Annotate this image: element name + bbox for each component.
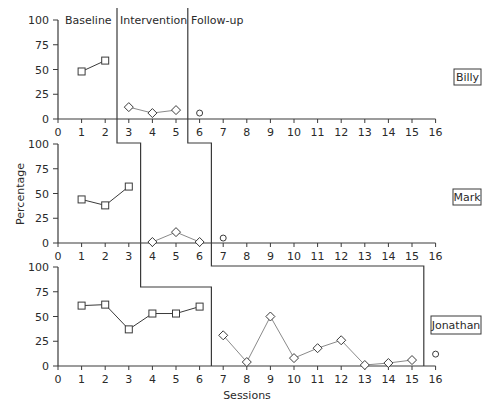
- x-tick-label: 5: [173, 126, 180, 139]
- square-marker: [173, 310, 180, 317]
- x-tick-label: 16: [429, 250, 443, 263]
- x-tick-label: 2: [102, 250, 109, 263]
- series-line: [82, 305, 200, 330]
- phase-label-follow-up: Follow-up: [191, 14, 243, 27]
- x-tick-label: 2: [102, 126, 109, 139]
- diamond-marker: [290, 354, 299, 363]
- diamond-marker: [148, 238, 157, 247]
- diamond-marker: [148, 109, 157, 118]
- x-tick-label: 8: [243, 126, 250, 139]
- series-baseline: [78, 183, 132, 209]
- x-axis-title: Sessions: [223, 389, 271, 402]
- square-marker: [78, 68, 85, 75]
- square-marker: [102, 301, 109, 308]
- x-tick-label: 6: [196, 126, 203, 139]
- x-tick-label: 12: [334, 126, 348, 139]
- phase-label-baseline: Baseline: [65, 14, 112, 27]
- series-follow-up: [220, 235, 226, 241]
- x-tick-label: 13: [358, 373, 372, 386]
- x-tick-label: 15: [405, 373, 419, 386]
- diamond-marker: [408, 356, 417, 365]
- y-tick-label: 25: [35, 335, 49, 348]
- x-tick-label: 0: [55, 126, 62, 139]
- square-marker: [102, 57, 109, 64]
- diamond-marker: [313, 344, 322, 353]
- y-tick-label: 50: [35, 311, 49, 324]
- x-tick-label: 12: [334, 373, 348, 386]
- diamond-marker: [195, 238, 204, 247]
- x-tick-label: 15: [405, 250, 419, 263]
- participant-label: Billy: [456, 71, 480, 84]
- circle-marker: [197, 110, 203, 116]
- x-tick-label: 10: [287, 373, 301, 386]
- series-intervention: [219, 312, 417, 370]
- x-tick-label: 15: [405, 126, 419, 139]
- panel-billy: 0255075100012345678910111213141516Billy: [28, 14, 481, 139]
- phase-labels: Baseline Intervention Follow-up: [65, 14, 243, 27]
- x-tick-label: 14: [381, 250, 395, 263]
- x-tick-label: 9: [267, 373, 274, 386]
- x-tick-label: 14: [381, 126, 395, 139]
- y-axis-title: Percentage: [14, 163, 27, 225]
- x-tick-label: 1: [78, 250, 85, 263]
- x-tick-label: 6: [196, 250, 203, 263]
- series-line: [223, 317, 412, 366]
- diamond-marker: [172, 228, 181, 237]
- y-tick-label: 25: [35, 88, 49, 101]
- x-tick-label: 16: [429, 373, 443, 386]
- participant-label: Jonathan: [431, 319, 481, 332]
- y-tick-label: 50: [35, 64, 49, 77]
- x-tick-label: 6: [196, 373, 203, 386]
- multiple-baseline-chart: Baseline Intervention Follow-up 02550751…: [0, 0, 496, 416]
- x-tick-label: 9: [267, 126, 274, 139]
- y-tick-label: 100: [28, 138, 49, 151]
- x-tick-label: 11: [311, 373, 325, 386]
- x-tick-label: 12: [334, 250, 348, 263]
- y-tick-label: 75: [35, 39, 49, 52]
- square-marker: [78, 196, 85, 203]
- square-marker: [196, 303, 203, 310]
- x-tick-label: 14: [381, 373, 395, 386]
- x-tick-label: 11: [311, 126, 325, 139]
- x-tick-label: 4: [149, 373, 156, 386]
- phase-label-intervention: Intervention: [120, 14, 187, 27]
- square-marker: [102, 202, 109, 209]
- x-tick-label: 0: [55, 373, 62, 386]
- diamond-marker: [266, 312, 275, 321]
- series-intervention: [124, 103, 180, 118]
- diamond-marker: [172, 106, 181, 115]
- x-tick-label: 7: [220, 250, 227, 263]
- circle-marker: [220, 235, 226, 241]
- y-tick-label: 0: [42, 237, 49, 250]
- series-follow-up: [433, 351, 439, 357]
- y-tick-label: 75: [35, 163, 49, 176]
- x-tick-label: 3: [125, 126, 132, 139]
- x-tick-label: 7: [220, 126, 227, 139]
- x-tick-label: 10: [287, 250, 301, 263]
- square-marker: [149, 310, 156, 317]
- x-tick-label: 2: [102, 373, 109, 386]
- y-tick-label: 50: [35, 188, 49, 201]
- x-tick-label: 8: [243, 250, 250, 263]
- participant-label: Mark: [453, 191, 481, 204]
- x-tick-label: 9: [267, 250, 274, 263]
- x-tick-label: 0: [55, 250, 62, 263]
- x-tick-label: 11: [311, 250, 325, 263]
- x-tick-label: 7: [220, 373, 227, 386]
- x-tick-label: 5: [173, 250, 180, 263]
- square-marker: [125, 183, 132, 190]
- y-tick-label: 100: [28, 14, 49, 27]
- series-baseline: [78, 301, 203, 333]
- x-tick-label: 1: [78, 126, 85, 139]
- x-tick-label: 4: [149, 250, 156, 263]
- circle-marker: [433, 351, 439, 357]
- panel-jonathan: 0255075100012345678910111213141516Jonath…: [28, 261, 481, 386]
- x-tick-label: 13: [358, 126, 372, 139]
- intervention-follow-up-phase-line: [188, 8, 424, 366]
- diamond-marker: [124, 103, 133, 112]
- y-tick-label: 0: [42, 360, 49, 373]
- x-tick-label: 13: [358, 250, 372, 263]
- x-tick-label: 5: [173, 373, 180, 386]
- x-tick-label: 3: [125, 373, 132, 386]
- series-baseline: [78, 57, 109, 75]
